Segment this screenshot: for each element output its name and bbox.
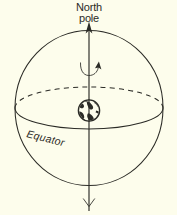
rotation-direction-arrow — [80, 62, 101, 76]
equator-label: Equator — [26, 127, 67, 148]
north-pole-label-line2: pole — [79, 12, 99, 24]
earth-globe — [78, 99, 101, 122]
diagram-canvas: North pole Equator — [0, 0, 177, 215]
